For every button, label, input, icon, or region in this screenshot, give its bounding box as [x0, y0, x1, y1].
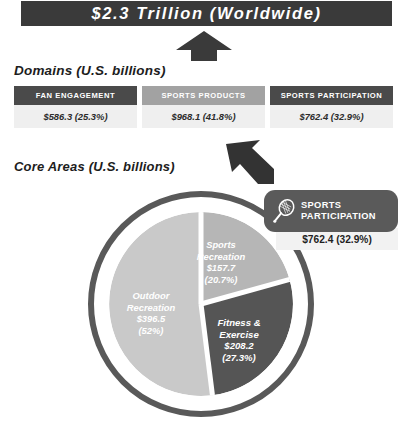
sports-participation-callout[interactable]: SPORTS PARTICIPATION	[264, 190, 398, 232]
domains-heading: Domains (U.S. billions)	[14, 63, 166, 78]
infographic-canvas: $2.3 Trillion (Worldwide) Domains (U.S. …	[0, 0, 406, 446]
page-title: $2.3 Trillion (Worldwide)	[91, 4, 321, 23]
domain-column-sports-participation[interactable]: SPORTS PARTICIPATION $762.4 (32.9%)	[270, 86, 393, 128]
arrow-diagonal-icon	[222, 136, 276, 186]
domain-value-label: $586.3 (25.3%)	[14, 105, 137, 128]
core-areas-heading: Core Areas (U.S. billions)	[14, 160, 175, 174]
domain-value-label: $968.1 (41.8%)	[142, 105, 265, 128]
domain-value-label: $762.4 (32.9%)	[270, 105, 393, 128]
domain-column-fan-engagement[interactable]: FAN ENGAGEMENT $586.3 (25.3%)	[14, 86, 137, 128]
domain-header-label: SPORTS PARTICIPATION	[270, 86, 393, 105]
domain-header-label: FAN ENGAGEMENT	[14, 86, 137, 105]
callout-label: SPORTS PARTICIPATION	[301, 200, 376, 223]
domain-header-label: SPORTS PRODUCTS	[142, 86, 265, 105]
arrow-up-icon	[175, 31, 233, 61]
domain-column-sports-products[interactable]: SPORTS PRODUCTS $968.1 (41.8%)	[142, 86, 265, 128]
pie-disc	[109, 212, 293, 396]
domains-table: FAN ENGAGEMENT $586.3 (25.3%) SPORTS PRO…	[14, 86, 393, 128]
tennis-racket-icon	[271, 198, 297, 224]
title-banner: $2.3 Trillion (Worldwide)	[21, 1, 392, 26]
